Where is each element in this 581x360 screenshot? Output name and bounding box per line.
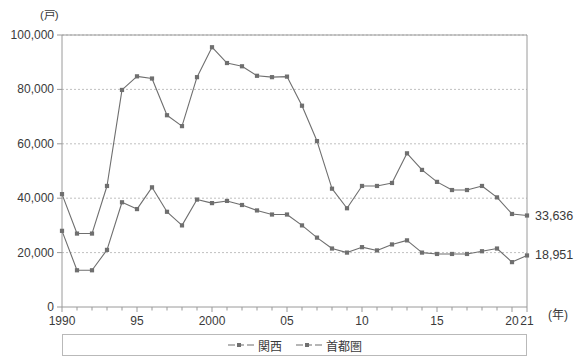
series-line-shutoken: [62, 47, 527, 233]
data-point-marker: [75, 231, 79, 235]
y-axis-tick-label: 0: [0, 300, 54, 314]
legend-label-kansai: 関西: [258, 337, 282, 354]
y-axis-tick-label: 40,000: [0, 191, 54, 205]
data-point-marker: [465, 252, 469, 256]
legend-item-kansai: 関西: [228, 337, 282, 354]
x-axis-tick-label: 1990: [49, 314, 76, 328]
data-point-marker: [330, 246, 334, 250]
data-point-marker: [300, 104, 304, 108]
x-axis-unit-label: (年): [548, 305, 568, 322]
data-point-marker: [270, 212, 274, 216]
x-axis-tick-label: 15: [430, 314, 443, 328]
data-point-marker: [450, 188, 454, 192]
data-point-marker: [375, 184, 379, 188]
data-point-marker: [330, 187, 334, 191]
data-point-marker: [195, 197, 199, 201]
data-point-marker: [120, 200, 124, 204]
data-point-marker: [420, 168, 424, 172]
data-point-marker: [450, 252, 454, 256]
data-point-marker: [525, 253, 529, 257]
data-point-marker: [180, 223, 184, 227]
data-point-marker: [285, 75, 289, 79]
data-point-marker: [405, 238, 409, 242]
data-point-marker: [360, 245, 364, 249]
data-point-marker: [60, 229, 64, 233]
end-label-shutoken: 33,636: [535, 209, 573, 223]
y-axis-unit-label: (戸): [40, 6, 59, 22]
data-point-marker: [75, 268, 79, 272]
x-axis-tick-label: 95: [130, 314, 143, 328]
end-label-kansai: 18,951: [535, 248, 573, 262]
data-point-marker: [105, 248, 109, 252]
legend-item-shutoken: 首都圏: [296, 337, 362, 354]
data-point-marker: [105, 184, 109, 188]
data-point-marker: [495, 246, 499, 250]
data-point-marker: [345, 206, 349, 210]
chart-plot-area: [0, 0, 581, 360]
data-point-marker: [165, 113, 169, 117]
data-point-marker: [225, 199, 229, 203]
data-point-marker: [300, 223, 304, 227]
data-point-marker: [255, 208, 259, 212]
data-point-marker: [270, 75, 274, 79]
data-point-marker: [360, 184, 364, 188]
data-point-marker: [195, 75, 199, 79]
x-axis-tick-label: 21: [520, 314, 533, 328]
data-point-marker: [225, 61, 229, 65]
y-axis-tick-label: 100,000: [0, 28, 54, 42]
data-point-marker: [315, 139, 319, 143]
data-point-marker: [120, 88, 124, 92]
data-point-marker: [210, 45, 214, 49]
data-point-marker: [390, 181, 394, 185]
legend-line-marker-icon: [228, 340, 254, 350]
data-point-marker: [135, 74, 139, 78]
data-point-marker: [315, 236, 319, 240]
data-point-marker: [135, 207, 139, 211]
data-point-marker: [240, 203, 244, 207]
chart-container: (戸) 020,00040,00060,00080,000100,000 199…: [0, 0, 581, 360]
data-point-marker: [405, 151, 409, 155]
data-point-marker: [420, 251, 424, 255]
data-point-marker: [165, 210, 169, 214]
data-point-marker: [180, 124, 184, 128]
data-point-marker: [525, 213, 529, 217]
chart-legend: 関西 首都圏: [62, 334, 527, 356]
data-point-marker: [60, 192, 64, 196]
data-point-marker: [375, 248, 379, 252]
data-point-marker: [510, 212, 514, 216]
data-point-marker: [480, 184, 484, 188]
y-axis-tick-label: 20,000: [0, 246, 54, 260]
x-axis-tick-label: 05: [280, 314, 293, 328]
data-point-marker: [435, 180, 439, 184]
data-point-marker: [285, 212, 289, 216]
y-axis-tick-label: 60,000: [0, 137, 54, 151]
data-point-marker: [150, 76, 154, 80]
data-point-marker: [390, 242, 394, 246]
data-point-marker: [150, 185, 154, 189]
x-axis-tick-label: 2000: [199, 314, 226, 328]
legend-label-shutoken: 首都圏: [326, 337, 362, 354]
x-axis-tick-label: 20: [505, 314, 518, 328]
data-point-marker: [210, 201, 214, 205]
data-point-marker: [255, 74, 259, 78]
data-point-marker: [90, 231, 94, 235]
data-point-marker: [465, 188, 469, 192]
y-axis-tick-label: 80,000: [0, 82, 54, 96]
x-axis-tick-label: 10: [355, 314, 368, 328]
data-point-marker: [510, 260, 514, 264]
data-point-marker: [240, 64, 244, 68]
data-point-marker: [495, 195, 499, 199]
data-point-marker: [90, 268, 94, 272]
data-point-marker: [480, 249, 484, 253]
legend-line-marker-icon: [296, 340, 322, 350]
data-point-marker: [435, 252, 439, 256]
data-point-marker: [345, 251, 349, 255]
series-line-kansai: [62, 187, 527, 270]
